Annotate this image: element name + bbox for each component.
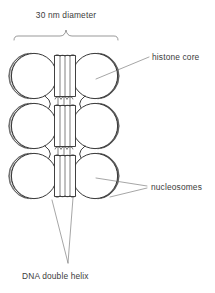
right-disc-2 [72,103,119,149]
diagram-canvas: 30 nm diameter histone core nucleosomes … [0,0,215,293]
dna-column-3 [55,155,76,198]
dna-column-2 [55,105,76,147]
dimension-brace [14,30,118,40]
nucleosome-row-3 [9,153,119,199]
nucleosome-row-2 [9,103,119,149]
histone-core-disc [11,103,56,148]
right-disc-1 [72,53,119,99]
left-disc-3 [9,153,57,199]
chromatin-fiber-diagram: 30 nm diameter histone core nucleosomes … [0,0,215,293]
right-disc-3 [72,153,119,199]
nucleosome-leader-lower [110,188,147,197]
label-histone-core: histone core [152,52,200,62]
dimension-brace-group [14,30,118,40]
dna-leader-right [68,198,73,263]
dna-column-1 [55,55,76,97]
label-dna-double-helix: DNA double helix [22,271,89,281]
histone-core-disc [72,153,117,198]
histone-core-disc [72,103,117,148]
left-disc-2 [9,103,57,149]
histone-core-disc [72,53,117,98]
left-disc-1 [9,53,57,99]
histone-core-disc [11,53,56,98]
label-nucleosomes: nucleosomes [151,182,202,192]
dna-leader-left [52,200,68,263]
histone-core-disc [11,153,56,198]
label-30nm-diameter: 30 nm diameter [36,10,96,20]
